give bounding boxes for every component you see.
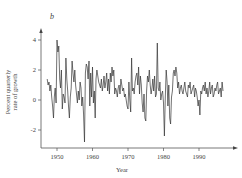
y-tick-label: 0 [33, 96, 36, 103]
x-tick-label: 1950 [51, 153, 64, 160]
y-tick-label: 4 [33, 36, 37, 43]
y-axis-arrow-icon [39, 28, 42, 33]
x-ticks: 19501960197019801990 [51, 148, 206, 160]
x-tick-label: 1980 [157, 153, 170, 160]
x-tick-label: 1960 [86, 153, 99, 160]
y-tick-label: -2 [31, 126, 36, 133]
y-ticks: -2024 [31, 36, 41, 133]
line-chart: -2024 19501960197019801990 Year [0, 0, 242, 178]
x-axis-label: Year [116, 166, 129, 173]
x-tick-label: 1970 [122, 153, 135, 160]
x-axis-arrow-icon [233, 146, 238, 149]
series-line [47, 40, 223, 142]
y-tick-label: 2 [33, 66, 36, 73]
x-tick-label: 1990 [193, 153, 206, 160]
